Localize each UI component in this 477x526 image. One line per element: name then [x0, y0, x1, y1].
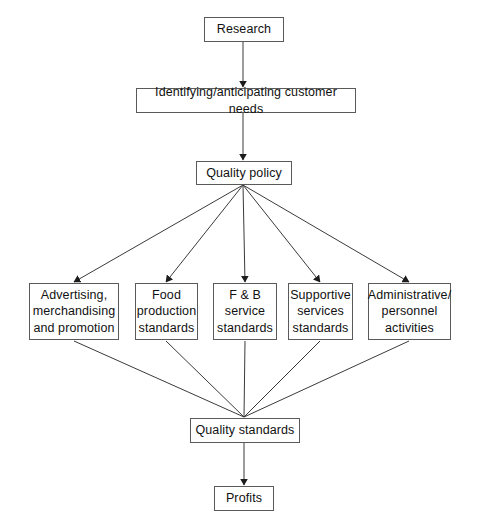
- node-advertising[interactable]: Advertising, merchandising and promotion: [29, 283, 119, 340]
- edge-supportive-services-to-standards: [244, 341, 320, 417]
- edge-food-production-to-standards: [166, 341, 244, 417]
- node-label-quality-policy: Quality policy: [206, 165, 282, 182]
- edge-layer: [0, 0, 477, 526]
- edge-administrative-to-standards: [244, 341, 409, 417]
- node-label-fb-service: F & B service standards: [217, 287, 273, 337]
- edge-advertising-to-standards: [74, 341, 244, 417]
- edge-policy-to-food-production: [166, 185, 243, 282]
- node-supportive-services[interactable]: Supportive services standards: [288, 283, 353, 340]
- node-quality-standards[interactable]: Quality standards: [190, 418, 300, 443]
- edge-policy-to-fb-service: [243, 185, 245, 282]
- node-label-research: Research: [217, 21, 271, 38]
- node-label-supportive-services: Supportive services standards: [290, 287, 351, 337]
- node-food-production[interactable]: Food production standards: [135, 283, 198, 340]
- node-label-quality-standards: Quality standards: [196, 422, 295, 439]
- node-label-profits: Profits: [226, 490, 262, 507]
- node-label-advertising: Advertising, merchandising and promotion: [33, 287, 116, 337]
- node-fb-service[interactable]: F & B service standards: [213, 283, 277, 340]
- node-administrative[interactable]: Administrative/ personnel activities: [368, 283, 451, 340]
- flowchart-diagram: ResearchIdentifying/anticipating custome…: [0, 0, 477, 526]
- edge-policy-to-supportive-services: [243, 185, 320, 282]
- edge-policy-to-advertising: [74, 185, 243, 282]
- node-label-food-production: Food production standards: [137, 287, 196, 337]
- node-label-identifying-needs: Identifying/anticipating customer needs: [141, 84, 351, 117]
- node-identifying-needs[interactable]: Identifying/anticipating customer needs: [136, 88, 356, 113]
- node-label-administrative: Administrative/ personnel activities: [368, 287, 451, 337]
- edge-fb-service-to-standards: [244, 341, 245, 417]
- node-profits[interactable]: Profits: [214, 486, 274, 511]
- edge-policy-to-administrative: [243, 185, 409, 282]
- node-research[interactable]: Research: [204, 17, 284, 42]
- node-quality-policy[interactable]: Quality policy: [196, 161, 292, 185]
